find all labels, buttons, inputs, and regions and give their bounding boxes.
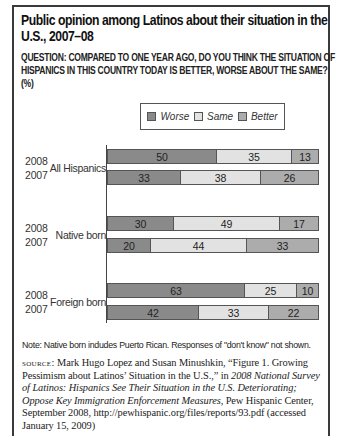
- group-label-all-hispanics: All Hispanics: [50, 162, 106, 174]
- year-label: 2008: [25, 222, 48, 234]
- bar-all-hispanics-2007: 33 38 26: [107, 170, 319, 185]
- bar-segment-better: 26: [260, 171, 318, 184]
- bar-segment-same: 49: [173, 217, 279, 230]
- bar-segment-worse: 20: [108, 239, 150, 252]
- bar-segment-worse: 30: [108, 217, 173, 230]
- year-label: 2007: [25, 303, 48, 315]
- legend-label: Same: [207, 111, 233, 122]
- bar-segment-worse: 42: [108, 306, 198, 319]
- year-label: 2007: [25, 169, 48, 181]
- bar-segment-better: 13: [291, 150, 318, 163]
- bar-foreign-born-2007: 42 33 22: [107, 305, 319, 320]
- bar-all-hispanics-2008: 50 35 13: [107, 149, 319, 164]
- worse-swatch-icon: [147, 112, 156, 121]
- bar-native-born-2008: 30 49 17: [107, 216, 319, 231]
- bar-segment-same: 35: [216, 150, 291, 163]
- year-label: 2008: [25, 289, 48, 301]
- better-swatch-icon: [238, 112, 247, 121]
- legend-item-better: Better: [238, 111, 278, 122]
- bar-foreign-born-2008: 63 25 10: [107, 283, 319, 298]
- bar-segment-better: 22: [268, 306, 318, 319]
- legend-label: Better: [251, 111, 278, 122]
- chart-note: Note: Native born indudes Puerto Rican. …: [22, 340, 336, 350]
- chart-title: Public opinion among Latinos about their…: [21, 12, 331, 44]
- legend-item-same: Same: [194, 111, 233, 122]
- legend-label: Worse: [160, 111, 189, 122]
- bar-segment-same: 33: [198, 306, 268, 319]
- legend: Worse Same Better: [140, 103, 285, 130]
- bar-segment-better: 33: [246, 239, 318, 252]
- bar-segment-same: 38: [180, 171, 260, 184]
- group-label-native-born: Native born: [56, 229, 106, 241]
- source-label: SOURCE:: [22, 357, 55, 368]
- bar-segment-better: 17: [279, 217, 318, 230]
- chart-question: QUESTION: COMPARED TO ONE YEAR AGO, DO Y…: [21, 51, 340, 90]
- year-label: 2007: [25, 236, 48, 248]
- source-citation: SOURCE: Mark Hugo Lopez and Susan Minush…: [22, 357, 322, 433]
- bar-segment-same: 25: [244, 284, 296, 297]
- legend-item-worse: Worse: [147, 111, 189, 122]
- bar-segment-same: 44: [150, 239, 246, 252]
- bar-native-born-2007: 20 44 33: [107, 238, 319, 253]
- bar-segment-worse: 50: [108, 150, 216, 163]
- same-swatch-icon: [194, 112, 203, 121]
- group-label-foreign-born: Foreign born: [50, 296, 106, 308]
- year-label: 2008: [25, 155, 48, 167]
- bar-segment-better: 10: [296, 284, 318, 297]
- bar-segment-worse: 33: [108, 171, 180, 184]
- bar-segment-worse: 63: [108, 284, 244, 297]
